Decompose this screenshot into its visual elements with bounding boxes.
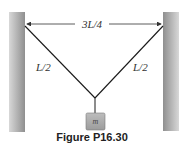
span-label: 3L/4 — [81, 18, 103, 30]
right-rope — [95, 26, 163, 98]
right-wall — [163, 12, 179, 131]
left-rope-label: L/2 — [35, 61, 51, 73]
mass-label: m — [93, 117, 99, 126]
span-dimension: 3L/4 — [27, 18, 161, 30]
right-rope-label: L/2 — [132, 61, 148, 73]
left-wall — [9, 12, 25, 132]
figure-caption: Figure P16.30 — [0, 131, 184, 143]
pendulum-diagram: 3L/4 L/2 L/2 m — [0, 0, 184, 152]
